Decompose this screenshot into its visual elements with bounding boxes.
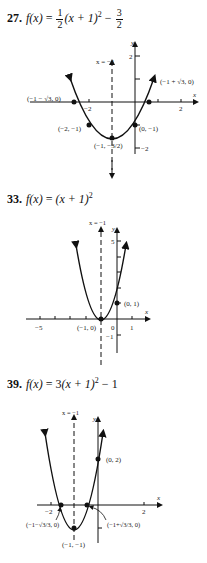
svg-text:x: x [192,91,197,99]
point-right-root [85,503,90,508]
label-vertex: (−1, −1) [62,541,86,549]
label-vertex: (−1, −3/2) [94,142,123,150]
label-neg2: (−2, −1) [58,125,82,133]
problem-39: 39.f(x) = 3(x + 1)2 − 1 x = −1 y x −2 2 … [0,365,207,563]
svg-text:−2: −2 [84,105,92,113]
svg-text:−1: −1 [106,333,114,341]
label-left-root: (−1−√3/3, 0) [26,521,59,529]
svg-text:x: x [144,308,149,316]
svg-text:0: 0 [111,324,115,332]
graph-33: x = −1 y x 5 −1 −5 0 1 (−1, 0) (0, 1) [0,185,207,365]
svg-text:−2: −2 [141,145,149,153]
label-right-root: (−1 + √3, 0) [160,78,195,86]
graph-39: x = −1 y x −2 2 (0, 2) (−1−√3/3, 0) (−1+… [0,365,207,563]
label-right-root: (−1+√3/3, 0) [107,521,140,529]
point-0 [133,123,138,128]
svg-text:x = −1: x = −1 [62,409,79,416]
svg-text:x: x [156,494,161,502]
label-y-int: (0, 1) [124,300,140,308]
point-right-root [147,100,152,105]
label-y-int: (0, 2) [106,456,122,464]
label-vertex: (−1, 0) [77,324,97,332]
label-left-root: (−1 − √3, 0) [27,95,62,103]
svg-text:5: 5 [111,238,115,246]
point-neg2 [87,123,92,128]
point-left-root [59,503,64,508]
graph-27: x = −1 y x 2 −2 −2 2 (−1 − √3, 0) (−1 + … [0,0,207,185]
svg-text:2: 2 [179,105,183,113]
svg-text:1: 1 [130,324,134,332]
svg-text:2: 2 [142,508,146,516]
point-vertex [99,317,104,322]
problem-27: 27.f(x) = 12(x + 1)2 − 32 x = −1 [0,0,207,185]
point-y-int [115,301,120,306]
svg-text:y: y [92,415,97,423]
label-0: (0, −1) [139,125,159,133]
problem-33: 33.f(x) = (x + 1)2 x = −1 y x 5 −1 −5 0 … [0,185,207,365]
point-left-root [72,100,77,105]
svg-text:y: y [111,225,116,233]
svg-text:2: 2 [129,53,133,61]
svg-text:y: y [130,39,135,47]
svg-text:−2: −2 [45,508,53,516]
point-y-int [96,457,101,462]
point-vertex [110,136,115,141]
svg-text:x = −1: x = −1 [89,219,106,226]
svg-text:−5: −5 [35,324,43,332]
point-vertex [72,526,77,531]
axis-label: x = −1 [96,58,115,66]
